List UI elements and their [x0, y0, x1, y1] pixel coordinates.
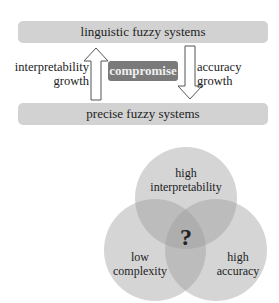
question-mark: ?	[176, 224, 196, 250]
label-line: interpretability	[146, 180, 226, 194]
label-line: complexity	[110, 264, 170, 278]
low-complexity-label: low complexity	[110, 250, 170, 278]
label-line: high	[146, 166, 226, 180]
high-interpretability-label: high interpretability	[146, 166, 226, 194]
label-line: high	[212, 250, 264, 264]
label-line: accuracy	[212, 264, 264, 278]
high-accuracy-label: high accuracy	[212, 250, 264, 278]
label-line: low	[110, 250, 170, 264]
